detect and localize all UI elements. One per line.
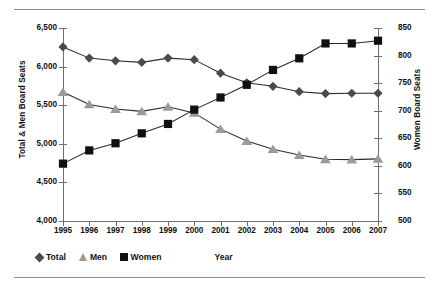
chart-figure: Total & Men Board Seats Women Board Seat… (0, 0, 439, 287)
right-y-tick-label: 750 (398, 78, 412, 87)
left-y-tick-labels: 4,0004,5005,0005,5006,0006,500 (0, 0, 57, 287)
data-point-marker (163, 102, 174, 110)
legend-square-icon (120, 253, 128, 261)
chart-legend: TotalMenWomen Year (36, 250, 233, 264)
right-y-tick-label: 800 (398, 51, 412, 60)
data-point-marker (268, 145, 279, 153)
x-axis-title: Year (214, 252, 232, 262)
data-point-marker (190, 106, 198, 114)
right-y-tick-label: 650 (398, 133, 412, 142)
right-y-axis-line (378, 28, 379, 221)
right-y-tick-label: 600 (398, 161, 412, 170)
legend-label: Women (131, 252, 162, 262)
legend-item-women: Women (120, 252, 161, 262)
legend-entries: TotalMenWomen (36, 252, 174, 262)
left-y-tick-label: 6,500 (4, 23, 57, 32)
data-point-marker (138, 129, 146, 137)
data-point-marker (58, 87, 69, 95)
divider-bottom (14, 277, 425, 278)
data-point-marker (268, 82, 277, 91)
right-y-tick-label: 850 (398, 23, 412, 32)
data-point-marker (111, 139, 119, 147)
data-point-marker (295, 54, 303, 62)
x-tick-label: 2007 (358, 226, 398, 235)
right-y-tick-label: 700 (398, 106, 412, 115)
legend-diamond-icon (35, 252, 45, 262)
data-point-marker (84, 100, 95, 108)
series-women (59, 37, 382, 168)
legend-item-total: Total (36, 252, 66, 262)
data-point-marker (163, 54, 172, 63)
plot-area (63, 28, 378, 221)
series-total (58, 42, 382, 98)
left-y-tick-label: 4,000 (4, 216, 57, 225)
divider-top (14, 9, 425, 10)
series-lines (63, 28, 378, 221)
left-y-tick-label: 5,500 (4, 100, 57, 109)
x-tick-labels: 1995199619971998199920002001200220032004… (63, 226, 378, 240)
legend-label: Men (90, 252, 107, 262)
data-point-marker (347, 89, 356, 98)
data-point-marker (348, 39, 356, 47)
data-point-marker (295, 87, 304, 96)
right-y-tick-labels: 500550600650700750800850 (390, 0, 439, 287)
data-point-marker (321, 39, 329, 47)
data-point-marker (269, 66, 277, 74)
data-point-marker (215, 125, 226, 133)
legend-label: Total (46, 252, 66, 262)
data-point-marker (241, 137, 252, 145)
left-y-tick-label: 4,500 (4, 177, 57, 186)
data-point-marker (243, 81, 251, 89)
data-point-marker (190, 55, 199, 64)
data-point-marker (164, 120, 172, 128)
data-point-marker (59, 160, 67, 168)
right-y-tick-label: 500 (398, 216, 412, 225)
legend-item-men: Men (79, 252, 107, 262)
data-point-marker (85, 146, 93, 154)
data-point-marker (216, 93, 224, 101)
legend-triangle-icon (79, 253, 87, 261)
data-point-marker (111, 56, 120, 65)
data-point-marker (58, 42, 67, 51)
left-y-tick-label: 5,000 (4, 139, 57, 148)
data-point-marker (85, 54, 94, 63)
data-point-marker (373, 89, 382, 98)
data-point-marker (137, 58, 146, 67)
data-point-marker (216, 69, 225, 78)
data-point-marker (321, 89, 330, 98)
left-y-tick-label: 6,000 (4, 62, 57, 71)
right-y-tick-label: 550 (398, 188, 412, 197)
data-point-marker (374, 37, 382, 45)
